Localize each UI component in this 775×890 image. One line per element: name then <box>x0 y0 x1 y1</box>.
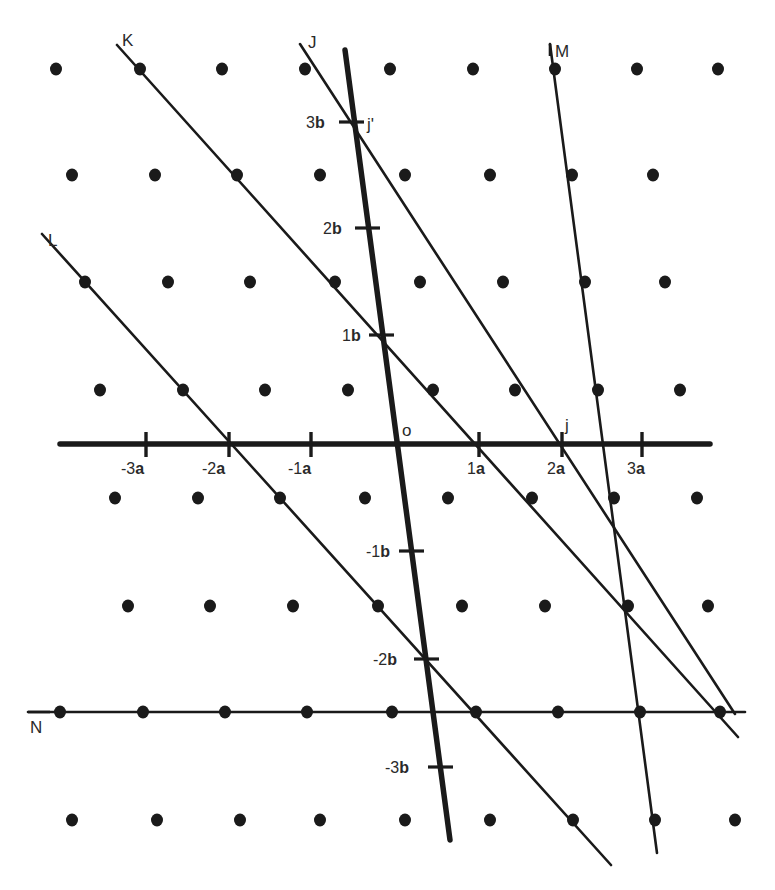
lattice-point <box>399 814 411 827</box>
lattice-point <box>359 492 371 505</box>
line-J <box>300 44 735 714</box>
lattice-point <box>177 384 189 397</box>
lattice-point <box>151 814 163 827</box>
lattice-point <box>384 63 396 76</box>
lattice-point <box>470 706 482 719</box>
lattice-point <box>442 492 454 505</box>
lattice-point <box>729 814 741 827</box>
lattice-point <box>372 600 384 613</box>
lattice-point <box>566 169 578 182</box>
lattice-point <box>414 276 426 289</box>
lattice-point <box>259 384 271 397</box>
label-minus-2b: -2b <box>373 651 397 668</box>
lattice-point <box>634 706 646 719</box>
lattice-lines <box>28 44 745 865</box>
lattice-point <box>399 169 411 182</box>
lattice-point <box>54 706 66 719</box>
label-N: N <box>30 718 42 737</box>
label-1b: 1b <box>342 327 361 344</box>
lattice-point <box>314 169 326 182</box>
lattice-point <box>497 276 509 289</box>
lattice-point <box>539 600 551 613</box>
line-L <box>42 234 611 865</box>
lattice-point <box>204 600 216 613</box>
lattice-point <box>329 276 341 289</box>
lattice-point <box>467 63 479 76</box>
lattice-point <box>567 814 579 827</box>
label-j: j <box>564 416 569 435</box>
label-K: K <box>122 31 134 50</box>
lattice-point <box>622 600 634 613</box>
lattice-point <box>484 814 496 827</box>
a-axis-labels: -3a -2a -1a 1a 2a 3a <box>121 460 645 477</box>
lattice-point <box>647 169 659 182</box>
lattice-point <box>134 63 146 76</box>
lattice-point <box>122 600 134 613</box>
lattice-point <box>649 814 661 827</box>
label-minus-1a: -1a <box>288 460 311 477</box>
lattice-point <box>66 169 78 182</box>
lattice-point <box>608 492 620 505</box>
lattice-point <box>94 384 106 397</box>
lattice-point <box>234 814 246 827</box>
lattice-point <box>299 63 311 76</box>
lattice-point <box>231 169 243 182</box>
lattice-point <box>427 384 439 397</box>
lattice-point <box>712 63 724 76</box>
lattice-point <box>314 814 326 827</box>
a-axis <box>60 432 710 457</box>
label-1a: 1a <box>467 460 485 477</box>
lattice-point <box>149 169 161 182</box>
label-3b: 3b <box>306 114 325 131</box>
lattice-point <box>50 63 62 76</box>
label-origin: o <box>402 421 411 440</box>
lattice-point <box>109 492 121 505</box>
lattice-point <box>484 169 496 182</box>
label-2a: 2a <box>547 460 565 477</box>
lattice-point <box>301 706 313 719</box>
label-minus-3b: -3b <box>385 759 409 776</box>
label-minus-3a: -3a <box>121 460 144 477</box>
label-minus-1b: -1b <box>366 543 390 560</box>
lattice-point <box>579 276 591 289</box>
lattice-point <box>549 63 561 76</box>
lattice-point <box>192 492 204 505</box>
lattice-point <box>79 276 91 289</box>
lattice-point <box>714 706 726 719</box>
lattice-point <box>137 706 149 719</box>
label-2b: 2b <box>323 220 342 237</box>
lattice-point <box>659 276 671 289</box>
lattice-point <box>244 276 256 289</box>
lattice-point <box>274 492 286 505</box>
lattice-point <box>342 384 354 397</box>
lattice-point <box>162 276 174 289</box>
lattice-point <box>509 384 521 397</box>
lattice-diagram: K J L M N o j j' -3a -2a -1a 1a 2a 3a 3b… <box>0 0 775 890</box>
lattice-point <box>456 600 468 613</box>
lattice-point <box>66 814 78 827</box>
lattice-point <box>287 600 299 613</box>
lattice-point <box>216 63 228 76</box>
label-minus-2a: -2a <box>202 460 225 477</box>
label-L: L <box>48 231 57 250</box>
lattice-point <box>702 600 714 613</box>
lattice-point <box>691 492 703 505</box>
lattice-point <box>386 706 398 719</box>
label-J: J <box>308 33 317 52</box>
line-labels: K J L M N <box>28 31 569 737</box>
lattice-point <box>526 492 538 505</box>
label-3a: 3a <box>627 460 645 477</box>
lattice-point <box>219 706 231 719</box>
lattice-point <box>631 63 643 76</box>
label-M: M <box>555 42 569 61</box>
lattice-point <box>552 706 564 719</box>
point-labels: o j j' <box>366 115 569 440</box>
lattice-point <box>592 384 604 397</box>
lattice-point <box>674 384 686 397</box>
label-j-prime: j' <box>366 115 374 134</box>
